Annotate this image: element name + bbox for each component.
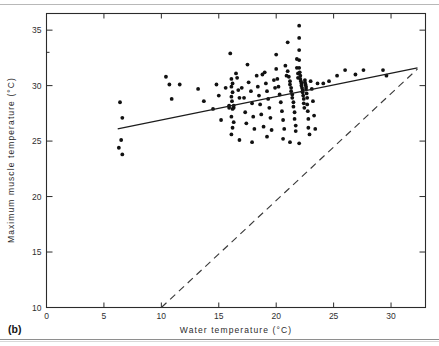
data-point [288,83,292,87]
data-point [313,127,317,131]
data-point [252,127,256,131]
data-point [297,24,301,28]
top-divider-rule [0,4,439,5]
data-point [290,96,294,100]
data-point [236,88,240,92]
data-point [164,75,168,79]
data-point [230,77,234,81]
data-point [288,79,292,83]
data-point [262,125,266,129]
data-point [321,81,325,85]
data-point [297,58,301,62]
data-point [119,138,123,142]
x-tick-label: 30 [386,311,396,321]
data-point [343,68,347,72]
x-axis-tick-labels: 051015202530 [44,311,396,321]
data-point [120,152,124,156]
data-point [289,86,293,90]
x-tick-label: 10 [157,311,167,321]
data-point [230,85,234,89]
data-point [272,78,276,82]
data-point [281,118,285,122]
data-point [235,76,239,80]
data-point [117,146,121,150]
data-point [230,99,234,103]
data-point [261,73,265,77]
data-point [240,86,244,90]
top-axis-ticks [47,14,392,19]
data-point [234,72,238,76]
data-point [292,105,296,109]
data-point [308,133,312,137]
y-axis-ticks [47,30,53,307]
y-tick-label: 10 [32,303,42,313]
y-tick-label: 35 [32,25,42,35]
data-point [286,40,290,44]
data-point [306,109,310,113]
data-point [311,99,315,103]
data-point [238,96,242,100]
data-point [224,86,228,90]
y-tick-label: 30 [32,81,42,91]
data-point [286,69,290,73]
data-point [297,48,301,52]
data-points [117,24,388,156]
data-point [215,83,219,87]
data-point [251,115,255,119]
data-point [270,128,274,132]
data-point [269,116,273,120]
data-point [306,126,310,130]
data-point [297,66,301,70]
data-point [170,97,174,101]
data-point [293,117,297,121]
y-axis-title: Maximum muscle temperature (°C) [6,77,16,243]
data-point [231,126,235,130]
bottom-divider-rule-secondary [0,341,439,342]
data-point [305,103,309,107]
y-axis-tick-labels: 101520253035 [32,25,42,312]
data-point [298,70,302,74]
data-point [267,106,271,110]
data-point [312,114,316,118]
data-point [178,83,182,87]
data-point [327,79,331,83]
data-point [280,109,284,113]
x-axis-title: Water temperature (°C) [180,325,292,335]
data-point [282,127,286,131]
data-point [246,63,250,67]
data-point [292,100,296,104]
y-tick-label: 20 [32,192,42,202]
data-point [273,86,277,90]
data-point [381,68,385,72]
data-point [294,129,298,133]
data-point [244,121,248,125]
data-point [277,85,281,89]
data-point [230,95,234,99]
data-point [258,103,262,107]
data-point [243,110,247,114]
data-point [217,94,221,98]
data-point [306,117,310,121]
data-point [228,52,232,56]
data-point [231,90,235,94]
data-point [259,113,263,117]
data-point [302,106,306,110]
data-point [281,137,285,141]
data-point [202,99,206,103]
data-point [283,64,287,68]
data-point [297,141,301,145]
data-point [301,94,305,98]
data-point [302,101,306,105]
x-tick-label: 5 [102,311,107,321]
data-point [288,140,292,144]
data-point [219,118,223,122]
data-point [231,81,235,85]
figure-panel: 051015202530 101520253035 Water temperat… [0,0,439,346]
data-point [275,77,279,81]
data-point [249,89,253,93]
data-point [362,68,366,72]
data-point [274,53,278,57]
y-tick-label: 25 [32,136,42,146]
bottom-divider-rule [0,339,439,340]
y-tick-label: 15 [32,247,42,257]
